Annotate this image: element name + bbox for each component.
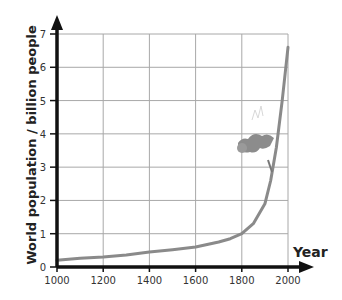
y-tick-label: 1	[40, 228, 46, 239]
y-tick-label: 6	[40, 62, 46, 73]
x-tick-label: 1000	[44, 275, 69, 286]
x-tick-label: 1600	[183, 275, 208, 286]
x-tick-label: 1200	[90, 275, 115, 286]
chart-canvas	[0, 0, 342, 300]
y-tick-label: 4	[40, 128, 46, 139]
climber-illustration-icon	[237, 106, 274, 172]
y-tick-label: 7	[40, 29, 46, 40]
y-tick-label: 2	[40, 195, 46, 206]
x-tick-label: 2000	[275, 275, 300, 286]
tick-marks	[50, 34, 288, 272]
y-axis-label: World population / billion people	[24, 25, 39, 265]
y-tick-label: 0	[40, 262, 46, 273]
x-axis-label: Year	[293, 244, 328, 260]
x-tick-label: 1800	[229, 275, 254, 286]
population-curve	[57, 47, 288, 260]
x-tick-label: 1400	[137, 275, 162, 286]
axes	[51, 15, 314, 273]
y-tick-label: 5	[40, 95, 46, 106]
y-tick-label: 3	[40, 162, 46, 173]
